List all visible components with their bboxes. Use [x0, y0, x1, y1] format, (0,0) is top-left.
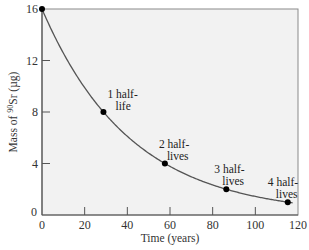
x-tick-label: 60: [164, 218, 176, 232]
y-tick-label: 16: [26, 2, 38, 16]
x-tick-label: 20: [79, 218, 91, 232]
y-tick-label: 0: [31, 205, 37, 219]
x-tick-label: 40: [121, 218, 133, 232]
x-axis-title: Time (years): [141, 232, 200, 245]
data-point: [100, 109, 106, 115]
y-tick-label: 4: [32, 157, 38, 171]
y-tick-label: 8: [32, 105, 38, 119]
x-tick-label: 80: [207, 218, 219, 232]
plot-area: [42, 9, 298, 215]
y-tick-label: 12: [26, 54, 38, 68]
x-tick-label: 120: [289, 218, 307, 232]
x-tick-label: 0: [39, 218, 45, 232]
y-axis-title: Mass of 90Sr (µg): [6, 71, 20, 152]
data-point: [39, 6, 45, 12]
x-tick-label: 100: [246, 218, 264, 232]
decay-chart: 0481216 020406080100120 1 half-life2 hal…: [0, 0, 309, 250]
